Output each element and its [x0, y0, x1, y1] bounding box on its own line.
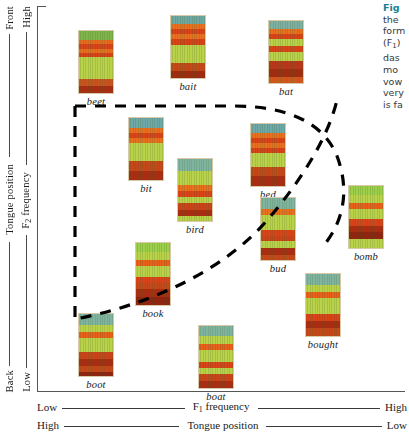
vowel-token-beet: beet [78, 30, 114, 107]
spectrogram-book [135, 242, 171, 306]
vowel-word-label: beet [87, 96, 105, 107]
axis-label-front: Front [4, 6, 15, 30]
formant-bands [269, 21, 303, 83]
vowel-word-label: bat [279, 86, 293, 97]
formant-band [349, 209, 383, 219]
vowel-token-bud: bud [260, 197, 296, 274]
spectrogram-boot [78, 313, 114, 377]
formant-band [199, 350, 233, 362]
formant-bands [79, 31, 113, 93]
spectrogram-bait [170, 15, 206, 79]
formant-band [136, 289, 170, 297]
formant-band [306, 285, 340, 292]
caption-line: das [383, 52, 409, 64]
formant-band [129, 118, 163, 128]
axis-label-high-right: High [385, 401, 407, 413]
caption-line: (F1) [383, 37, 409, 53]
formant-band [199, 381, 233, 388]
spectrogram-bomb [348, 185, 384, 249]
vowel-token-boot: boot [78, 313, 114, 390]
axis-f1-frequency-horizontal: Low F1 frequency High [37, 400, 407, 414]
vowel-token-bit: bit [128, 117, 164, 194]
formant-band [178, 159, 212, 171]
formant-band [269, 69, 303, 77]
formant-band [261, 215, 295, 230]
axis-f2-frequency-vertical: High F2 frequency Low [19, 6, 34, 392]
spectrogram-beet [78, 30, 114, 94]
formant-band [349, 239, 383, 248]
formant-band [79, 314, 113, 325]
formant-band [251, 176, 285, 186]
formant-bands [178, 159, 212, 221]
vowel-word-label: bomb [354, 251, 378, 262]
formant-bands [129, 118, 163, 180]
formant-band [349, 186, 383, 195]
formant-band [79, 57, 113, 79]
axis-label-high-left: High [37, 419, 59, 431]
formant-band [306, 321, 340, 328]
formant-band [129, 171, 163, 180]
formant-band [261, 241, 295, 248]
axis-label-high: High [21, 6, 32, 28]
caption-line: the [383, 14, 409, 26]
frame-tick-top [37, 6, 46, 7]
axis-line-upper [26, 32, 27, 165]
formant-band [79, 79, 113, 86]
formant-bands [79, 314, 113, 376]
formant-bands [171, 16, 205, 78]
formant-band [199, 336, 233, 344]
formant-band [261, 198, 295, 209]
axis-title-f2-frequency: F2 frequency [20, 169, 33, 232]
formant-band [79, 338, 113, 352]
formant-band [261, 255, 295, 260]
spectrogram-boat [198, 325, 234, 389]
axis-line-lower [9, 242, 10, 366]
formant-band [199, 326, 233, 336]
figure-root: Front Tongue position Back High F2 frequ… [0, 0, 409, 433]
formant-band [136, 266, 170, 277]
axis-label-low-right: Low [387, 419, 407, 431]
formant-bands [306, 274, 340, 336]
formant-band [178, 171, 212, 185]
vowel-token-bed: bed [250, 123, 286, 200]
formant-band [79, 325, 113, 332]
formant-band [269, 77, 303, 83]
vowel-word-label: bud [270, 263, 286, 274]
formant-band [171, 45, 205, 63]
vowel-word-label: bird [186, 224, 204, 235]
axis-title-tongue-position-bottom: Tongue position [184, 419, 261, 431]
formant-band [79, 372, 113, 376]
spectrogram-bed [250, 123, 286, 187]
vowel-token-bird: bird [177, 158, 213, 235]
vowel-word-label: bought [308, 339, 338, 350]
axis-line-right [258, 408, 380, 409]
formant-band [171, 16, 205, 24]
vowel-token-bomb: bomb [348, 185, 384, 262]
formant-bands [261, 198, 295, 260]
vowel-token-bat: bat [268, 20, 304, 97]
formant-band [251, 153, 285, 167]
formant-band [251, 124, 285, 133]
formant-band [171, 71, 205, 78]
formant-band [269, 21, 303, 29]
formant-band [129, 161, 163, 171]
formant-band [251, 167, 285, 176]
formant-band [269, 61, 303, 69]
vowel-token-book: book [135, 242, 171, 319]
vowel-token-bait: bait [170, 15, 206, 92]
vowel-word-label: book [142, 308, 163, 319]
frame-axis-line-left [37, 6, 38, 392]
vowel-token-boat: boat [198, 325, 234, 402]
formant-bands [199, 326, 233, 388]
formant-bands [349, 186, 383, 248]
formant-band [136, 297, 170, 305]
caption-line: form [383, 25, 409, 37]
axis-title-f1-frequency: F1 frequency [190, 400, 253, 414]
figure-caption: Figtheform(F1)dasmovowveryis fa [383, 2, 409, 110]
formant-bands [136, 243, 170, 305]
formant-band [306, 328, 340, 336]
spectrogram-bird [177, 158, 213, 222]
formant-bands [251, 124, 285, 186]
vowel-word-label: bait [179, 81, 196, 92]
axis-tongue-position-horizontal: High Tongue position Low [37, 419, 407, 431]
